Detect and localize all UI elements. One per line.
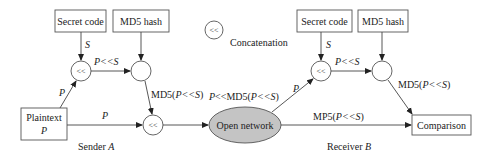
- plaintext-box: Plaintext P: [21, 108, 67, 140]
- sender-md5-hash-box: MD5 hash: [113, 10, 169, 32]
- receiver-md5-hash-label: MD5 hash: [362, 16, 404, 27]
- sender-output-concat-node: <<: [143, 115, 163, 135]
- receiver-label: Receiver B: [327, 141, 371, 152]
- receiver-concat-edge-label: P<<S: [334, 56, 360, 67]
- network-direct-label: MP5(P<<S): [313, 111, 364, 123]
- sender-concat-edge-label: P<<S: [93, 56, 119, 67]
- sender-label: Sender A: [78, 141, 115, 152]
- receiver-secret-code-box: Secret code: [297, 10, 352, 32]
- sender-md5-hash-label: MD5 hash: [120, 16, 162, 27]
- open-network-node: Open network: [209, 107, 281, 143]
- receiver-secret-edge-label: S: [326, 39, 331, 50]
- network-incoming-label: P<<MD5(P<<S): [208, 91, 279, 103]
- concat-icon: <<: [316, 67, 326, 76]
- comparison-box: Comparison: [412, 115, 471, 135]
- sender-hash-edge-label: MD5(P<<S): [151, 89, 203, 101]
- concat-icon: <<: [76, 67, 86, 76]
- sender-p-upper-label: P: [58, 87, 65, 98]
- comparison-label: Comparison: [417, 120, 466, 131]
- sender-secret-code-box: Secret code: [55, 10, 106, 32]
- sender-p-lower-label: P: [101, 110, 108, 121]
- diagram-canvas: Secret code MD5 hash S << P<<S P MD5(P<<…: [0, 0, 490, 155]
- receiver-concat-node: <<: [311, 61, 331, 81]
- concat-icon: <<: [148, 121, 158, 130]
- receiver-hash-edge-label: MD5(P<<S): [398, 79, 450, 91]
- receiver-md5-hash-box: MD5 hash: [358, 10, 408, 32]
- legend-symbol: <<: [209, 26, 219, 35]
- plaintext-var: P: [40, 125, 47, 136]
- plaintext-label: Plaintext: [26, 112, 62, 123]
- sender-secret-code-label: Secret code: [57, 16, 104, 27]
- legend-label: Concatenation: [230, 37, 288, 48]
- open-network-label: Open network: [217, 120, 274, 131]
- sender-concat-node: <<: [71, 61, 91, 81]
- receiver-hash-node: [372, 61, 392, 81]
- sender-hash-node: [131, 61, 151, 81]
- network-p-label: P: [292, 83, 299, 94]
- legend: << Concatenation: [205, 21, 288, 48]
- receiver-secret-code-label: Secret code: [301, 16, 348, 27]
- sender-secret-edge-label: S: [85, 39, 90, 50]
